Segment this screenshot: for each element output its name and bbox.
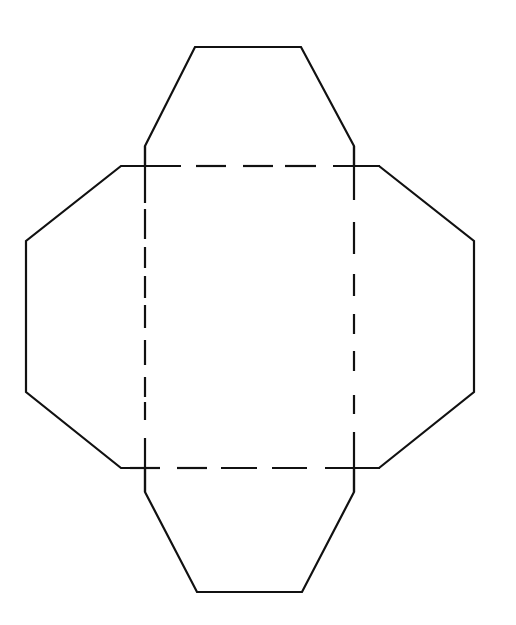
envelope-net-diagram (0, 0, 516, 625)
cut-lines (26, 47, 474, 592)
right-flap-outline (354, 166, 474, 468)
bottom-flap-outline (145, 468, 354, 592)
top-flap-outline (145, 47, 354, 166)
fold-lines (130, 146, 380, 492)
left-flap-outline (26, 166, 145, 468)
